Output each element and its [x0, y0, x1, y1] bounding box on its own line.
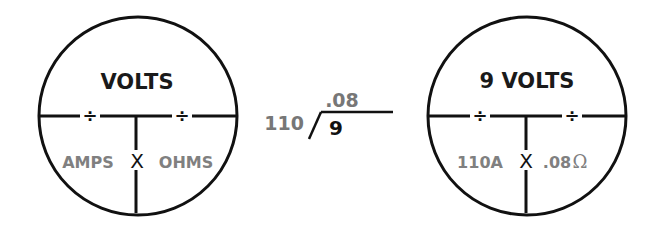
multiply-icon: X [130, 149, 144, 173]
volts-label: VOLTS [100, 70, 173, 94]
ohms-law-diagram: ÷ ÷ VOLTS AMPS X OHMS .08 110 9 ÷ ÷ 9 VO… [0, 0, 662, 233]
nine-volts-label: 9 VOLTS [479, 69, 574, 93]
left-divide-icon-2: ÷ [174, 105, 189, 126]
dividend-value: 9 [329, 116, 343, 140]
omega-icon: Ω [573, 151, 588, 172]
divisor-value: 110 [264, 112, 304, 134]
amps-label: AMPS [62, 153, 114, 172]
left-divide-icon-1: ÷ [82, 105, 97, 126]
amps-value-label: 110A [457, 153, 503, 172]
right-ohms-law-circle: ÷ ÷ 9 VOLTS 110A X .08 Ω [428, 17, 626, 215]
long-division: .08 110 9 [264, 89, 393, 140]
right-divide-icon-1: ÷ [472, 105, 487, 126]
ohms-label: OHMS [159, 153, 213, 172]
right-divide-icon-2: ÷ [564, 105, 579, 126]
quotient-value: .08 [325, 89, 359, 111]
multiply-icon: X [519, 149, 533, 173]
left-ohms-law-circle: ÷ ÷ VOLTS AMPS X OHMS [39, 17, 237, 215]
ohms-value-label: .08 [543, 153, 571, 172]
division-bracket [309, 112, 321, 139]
